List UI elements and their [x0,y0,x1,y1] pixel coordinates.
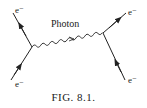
electron-line-bottom-right [103,33,125,80]
electron-arrow-bottom-right [116,62,121,72]
photon-label: Photon [51,19,79,28]
label-e-top-left: e⁻ [15,6,24,15]
label-e-top-right: e⁻ [128,8,137,17]
electron-arrow-top-right [109,19,119,28]
photon-wave [32,32,102,47]
electron-arrow-top-left [20,25,26,36]
label-e-bottom-left: e⁻ [15,80,24,89]
label-e-bottom-right: e⁻ [128,76,137,85]
figure-caption: FIG. 8.1. [0,91,147,103]
electron-arrow-bottom-left [14,66,20,75]
